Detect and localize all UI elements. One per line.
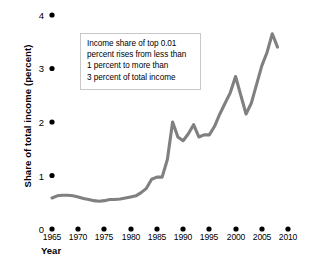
x-tick-label-2010: 2010	[275, 232, 301, 242]
x-axis-title: Year	[41, 245, 61, 256]
x-tick-label-2005: 2005	[249, 232, 275, 242]
y-tick-dot-2	[49, 119, 54, 124]
x-tick-dot-1980	[128, 226, 133, 231]
x-tick-dot-1985	[154, 226, 159, 231]
x-tick-label-2000: 2000	[223, 232, 249, 242]
chart-figure: Share of total income (percent) 4 3 2 1 …	[0, 0, 309, 272]
x-tick-dot-1975	[101, 226, 106, 231]
x-tick-label-1980: 1980	[118, 232, 144, 242]
x-tick-label-1975: 1975	[91, 232, 117, 242]
y-tick-dot-3	[49, 66, 54, 71]
annotation-line-1: Income share of top 0.01	[87, 38, 195, 49]
x-tick-dot-1990	[180, 226, 185, 231]
y-tick-dot-4	[49, 12, 54, 17]
x-tick-label-1970: 1970	[65, 232, 91, 242]
annotation-line-4: 3 percent of total income	[87, 72, 195, 83]
x-tick-label-1990: 1990	[170, 232, 196, 242]
x-tick-label-1965: 1965	[39, 232, 65, 242]
y-tick-dot-1	[49, 173, 54, 178]
x-tick-dot-1970	[75, 226, 80, 231]
x-tick-dot-2000	[233, 226, 238, 231]
annotation-box: Income share of top 0.01 percent rises f…	[80, 33, 201, 90]
x-tick-dot-2005	[259, 226, 264, 231]
x-tick-dot-2010	[285, 226, 290, 231]
annotation-line-3: 1 percent to more than	[87, 60, 195, 71]
x-tick-label-1995: 1995	[196, 232, 222, 242]
annotation-line-2: percent rises from less than	[87, 49, 195, 60]
y-tick-dot-0	[49, 226, 54, 231]
x-tick-label-1985: 1985	[144, 232, 170, 242]
x-tick-dot-1995	[206, 226, 211, 231]
